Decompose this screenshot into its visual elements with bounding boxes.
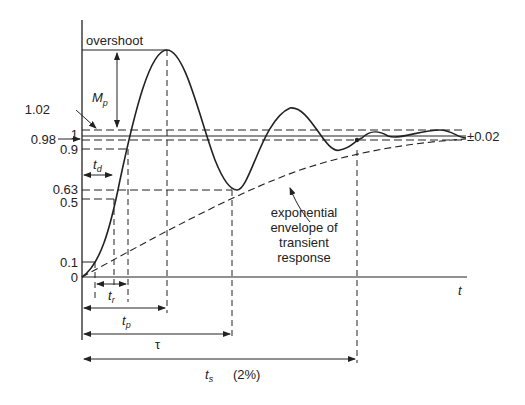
td-label: td bbox=[93, 157, 103, 174]
y-tick-0.9: 0.9 bbox=[60, 142, 78, 157]
y-tick-0.5: 0.5 bbox=[60, 195, 78, 210]
overshoot-label: overshoot bbox=[86, 33, 143, 48]
svg-text:transient: transient bbox=[279, 235, 329, 250]
x-axis-label: t bbox=[458, 283, 463, 298]
step-response-curve bbox=[82, 50, 466, 277]
envelope-note: exponential envelope of transient respon… bbox=[270, 205, 338, 265]
tolerance-label: ±0.02 bbox=[467, 129, 499, 144]
tr-label: tr bbox=[108, 288, 116, 305]
mp-label: Mp bbox=[92, 90, 108, 108]
y-tick-0: 0 bbox=[71, 270, 78, 285]
y-tick-1: 1 bbox=[71, 127, 78, 142]
ts-label: ts bbox=[205, 367, 214, 384]
y-tick-0.1: 0.1 bbox=[60, 255, 78, 270]
tp-label: tp bbox=[122, 313, 131, 330]
ts-note: (2%) bbox=[233, 367, 260, 382]
step-response-diagram: 1 1.02 0.98 0.9 0.63 0.5 0.1 0 overshoot… bbox=[0, 0, 525, 405]
svg-text:envelope of: envelope of bbox=[270, 220, 338, 235]
svg-text:exponential: exponential bbox=[271, 205, 338, 220]
svg-text:response: response bbox=[277, 250, 330, 265]
y-tick-1.02: 1.02 bbox=[25, 102, 50, 117]
y-tick-0.98: 0.98 bbox=[31, 132, 56, 147]
tau-label: τ bbox=[155, 337, 161, 352]
